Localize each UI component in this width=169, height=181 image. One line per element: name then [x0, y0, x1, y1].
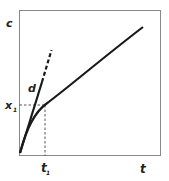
- diagram-canvas: c t d x 1 t 1: [0, 0, 169, 181]
- tangent-label: d: [28, 82, 36, 95]
- t1-subscript: 1: [46, 169, 50, 176]
- y-axis-label: c: [6, 17, 13, 30]
- x1-subscript: 1: [13, 106, 17, 113]
- x1-label: x: [4, 99, 13, 112]
- diagram-svg: c t d x 1 t 1: [0, 0, 169, 181]
- tangent-line-dashed: [42, 50, 52, 82]
- x-axis-label: t: [140, 162, 147, 176]
